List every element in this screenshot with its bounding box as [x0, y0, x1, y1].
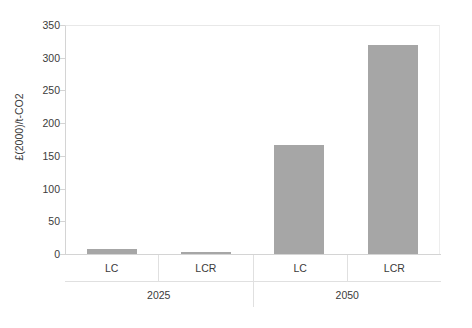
x-axis-category-label: LC [254, 255, 348, 281]
bar[interactable] [368, 45, 418, 254]
bar-slot [346, 25, 440, 254]
y-axis-tick-mark [60, 90, 65, 91]
y-axis-tick-label: 250 [28, 85, 60, 96]
y-axis-tick-mark [60, 123, 65, 124]
x-axis-group-label: 2025 [65, 282, 254, 307]
y-axis-tick-labels: 350300250200150100500 [28, 0, 60, 328]
y-axis-tick-mark [60, 254, 65, 255]
y-axis-tick-label: 350 [28, 20, 60, 31]
y-axis-tick-mark [60, 221, 65, 222]
x-axis-category-label: LCR [348, 255, 441, 281]
bar-slot [65, 25, 159, 254]
bar-slot [253, 25, 347, 254]
bar-chart: £(2000)/t-CO2 350300250200150100500 LCLC… [0, 0, 472, 328]
y-axis-title-text: £(2000)/t-CO2 [13, 93, 25, 160]
y-axis-tick-mark [60, 189, 65, 190]
x-axis-category-label: LC [65, 255, 159, 281]
y-axis-tick-mark [60, 25, 65, 26]
x-axis-category-labels: LCLCRLCLCR [65, 255, 441, 281]
bars-layer [65, 25, 440, 254]
y-axis-tick-label: 50 [28, 216, 60, 227]
y-axis-title: £(2000)/t-CO2 [10, 0, 28, 254]
x-axis-group-label: 2050 [254, 282, 442, 307]
y-axis-tick-label: 0 [28, 249, 60, 260]
y-axis-tick-mark [60, 156, 65, 157]
y-axis-tick-mark [60, 58, 65, 59]
y-axis-tick-label: 300 [28, 52, 60, 63]
x-axis-category-label: LCR [159, 255, 253, 281]
bar[interactable] [181, 252, 231, 254]
bar-slot [159, 25, 253, 254]
y-axis-tick-label: 200 [28, 118, 60, 129]
bar[interactable] [87, 249, 137, 254]
y-axis-tick-label: 150 [28, 150, 60, 161]
y-axis-tick-label: 100 [28, 183, 60, 194]
bar[interactable] [274, 145, 324, 254]
x-axis-group-labels: 20252050 [65, 281, 441, 307]
